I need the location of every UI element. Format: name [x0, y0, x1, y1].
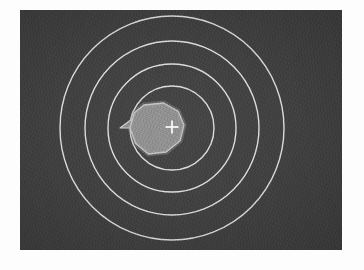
central-source-blob — [120, 103, 184, 154]
display-graphics-layer — [20, 10, 342, 250]
range-ring-display-panel — [20, 10, 342, 250]
screenshot-root — [0, 0, 364, 270]
